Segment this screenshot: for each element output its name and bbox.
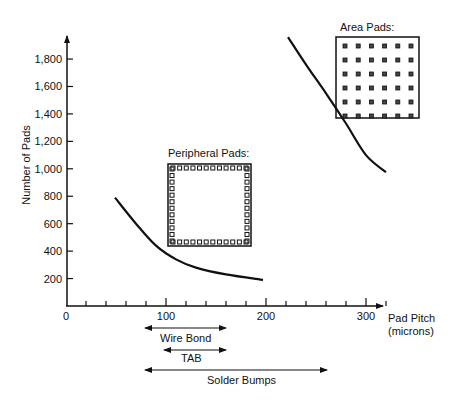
y-tick-label: 600	[44, 218, 62, 230]
y-tick-label: 1,800	[34, 53, 62, 65]
area-pads-inset: Area Pads:	[336, 21, 419, 118]
x-axis-label-line2: (microns)	[388, 325, 434, 337]
tab-range: TAB	[164, 350, 226, 364]
x-tick-label: 0	[63, 310, 69, 322]
solder-bumps-range: Solder Bumps	[145, 370, 327, 386]
x-axis: 0100200300	[63, 298, 386, 322]
y-tick-label: 1,600	[34, 80, 62, 92]
peripheral-pads-curve	[115, 198, 263, 280]
x-tick-label: 100	[157, 310, 175, 322]
area-pads-label: Area Pads:	[340, 21, 394, 33]
area-pads-curve	[288, 37, 386, 172]
peripheral-pads-inset: Peripheral Pads:	[168, 147, 251, 246]
y-tick-label: 800	[44, 190, 62, 202]
solder-bumps-label: Solder Bumps	[207, 374, 277, 386]
peripheral-pads-label: Peripheral Pads:	[168, 147, 249, 159]
y-axis-label: Number of Pads	[20, 125, 32, 205]
y-tick-label: 1,200	[34, 135, 62, 147]
y-tick-label: 1,400	[34, 108, 62, 120]
wire-bond-range: Wire Bond	[145, 328, 226, 344]
y-axis: 2004006008001,0001,2001,4001,6001,800	[34, 36, 73, 306]
y-tick-label: 200	[44, 273, 62, 285]
y-tick-label: 1,000	[34, 163, 62, 175]
y-tick-label: 400	[44, 245, 62, 257]
x-tick-label: 300	[357, 310, 375, 322]
x-axis-label-line1: Pad Pitch	[388, 312, 435, 324]
x-tick-label: 200	[257, 310, 275, 322]
tab-label: TAB	[181, 352, 202, 364]
wire-bond-label: Wire Bond	[160, 332, 211, 344]
pad-count-vs-pitch-diagram: 2004006008001,0001,2001,4001,6001,800 01…	[0, 0, 451, 403]
